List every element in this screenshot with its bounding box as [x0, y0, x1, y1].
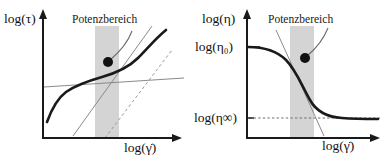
y-axis-label-right: log(η): [202, 12, 235, 26]
band-label-left: Potenzbereich: [72, 14, 137, 26]
x-axis-arrow-left: [172, 134, 182, 142]
y-axis-arrow-right: [243, 9, 251, 19]
annotation-dot-right: [300, 53, 310, 63]
chart-panel-viscosity-curve: log(η) log(η₀) log(η∞) log(γ̇) Potenzber…: [194, 0, 389, 165]
y-tick-label-eta-infinity: log(η∞): [194, 111, 237, 125]
band-label-right: Potenzbereich: [268, 14, 333, 26]
y-axis-arrow-left: [39, 9, 47, 19]
y-tick-label-eta-zero: log(η₀): [195, 40, 233, 54]
annotation-dot-left: [103, 57, 113, 67]
chart-panel-flow-curve: log(τ) log(γ̇) Potenzbereich: [0, 0, 195, 165]
figure-root: log(τ) log(γ̇) Potenzbereich log: [0, 0, 389, 165]
x-axis-label-right: log(γ̇): [322, 139, 354, 153]
y-axis-label-left: log(τ): [4, 12, 36, 26]
x-axis-arrow-right: [370, 134, 380, 142]
x-axis-label-left: log(γ̇): [124, 141, 156, 155]
